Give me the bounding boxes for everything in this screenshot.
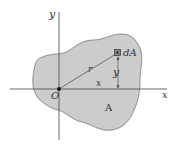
diagram-canvas: y x O dA r y x A <box>0 0 179 150</box>
origin-label: O <box>51 90 59 101</box>
y-axis-label: y <box>48 8 56 21</box>
element-label: dA <box>123 47 137 58</box>
x-distance-label: x <box>96 78 101 88</box>
y-distance-label: y <box>112 66 120 79</box>
area-label: A <box>104 102 113 113</box>
x-axis-label: x <box>162 89 168 100</box>
area-moment-diagram: y x O dA r y x A <box>0 0 179 150</box>
element-dA-center <box>117 52 119 54</box>
radius-label: r <box>88 64 93 74</box>
